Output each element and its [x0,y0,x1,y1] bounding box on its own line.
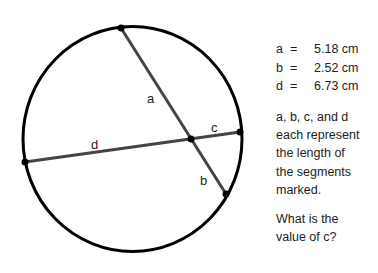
measurement-value: 6.73 cm [314,77,358,96]
measurement-eq: = [290,40,314,59]
problem-panel: a = 5.18 cm b = 2.52 cm d = 6.73 cm a, b… [276,40,378,246]
description-line: marked. [276,181,378,199]
description-line: the length of [276,144,378,162]
measurement-var: a [276,40,290,59]
point-right [237,129,244,136]
circle [23,27,242,252]
problem-description: a, b, c, and d each represent the length… [276,108,378,200]
chord-a-b [121,28,226,194]
measurement-a: a = 5.18 cm [276,40,378,59]
measurement-d: d = 6.73 cm [276,77,378,96]
circle-chords-diagram: a b c d [0,0,260,273]
point-intersection [188,136,195,143]
label-a: a [147,91,155,106]
measurement-value: 5.18 cm [314,40,358,59]
measurement-var: b [276,59,290,78]
measurement-var: d [276,77,290,96]
question-line: value of c? [276,228,378,246]
point-bottom-right [223,191,230,198]
point-top [118,25,125,32]
description-line: each represent [276,126,378,144]
description-line: the segments [276,163,378,181]
chord-d-c [25,132,240,162]
problem-question: What is the value of c? [276,210,378,247]
description-line: a, b, c, and d [276,108,378,126]
label-b: b [200,173,207,188]
label-c: c [211,120,218,135]
label-d: d [91,137,98,152]
measurement-eq: = [290,77,314,96]
measurement-value: 2.52 cm [314,59,358,78]
measurement-b: b = 2.52 cm [276,59,378,78]
measurement-eq: = [290,59,314,78]
question-line: What is the [276,210,378,228]
point-left [22,159,29,166]
